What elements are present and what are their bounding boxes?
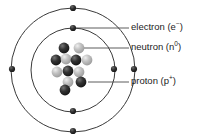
nucleus-neutron	[74, 43, 85, 54]
nucleus-neutron	[61, 54, 72, 65]
nucleus-neutron	[52, 67, 63, 78]
nucleus-proton	[71, 55, 82, 66]
label-proton: proton (p+)	[131, 76, 176, 86]
nucleus-proton	[63, 66, 74, 77]
electron-inner-top	[70, 25, 76, 31]
electron-outer-bottom	[70, 128, 76, 134]
electron-outer-top	[70, 5, 76, 11]
electron-inner-bottom	[70, 108, 76, 114]
label-neutron-tail: )	[178, 41, 181, 52]
nucleus-proton	[76, 77, 87, 88]
label-neutron-text: neutron (n	[131, 41, 174, 52]
nucleus-group	[51, 43, 93, 96]
label-electron-text: electron (e	[131, 21, 176, 32]
label-neutron: neutron (n0)	[131, 42, 181, 52]
atom-diagram-canvas: electron (e−) neutron (n0) proton (p+)	[0, 0, 207, 140]
nucleus-proton	[51, 55, 62, 66]
electron-inner-right	[111, 66, 117, 72]
electron-outer-right	[131, 66, 137, 72]
nucleus-proton	[59, 43, 70, 54]
nucleus-neutron	[74, 67, 85, 78]
label-proton-text: proton (p	[131, 75, 169, 86]
label-electron-tail: )	[180, 21, 183, 32]
label-electron: electron (e−)	[131, 22, 183, 32]
electron-outer-left	[9, 66, 15, 72]
nucleus-proton	[60, 85, 71, 96]
nucleus-neutron	[82, 55, 93, 66]
label-proton-tail: )	[173, 75, 176, 86]
